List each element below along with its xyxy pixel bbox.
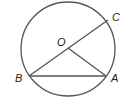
label-a: A [110, 72, 118, 84]
radius-oa [68, 48, 106, 76]
label-o: O [57, 36, 66, 48]
label-b: B [15, 72, 22, 84]
label-c: C [112, 11, 120, 23]
circle-diagram: O A B C [0, 0, 129, 97]
